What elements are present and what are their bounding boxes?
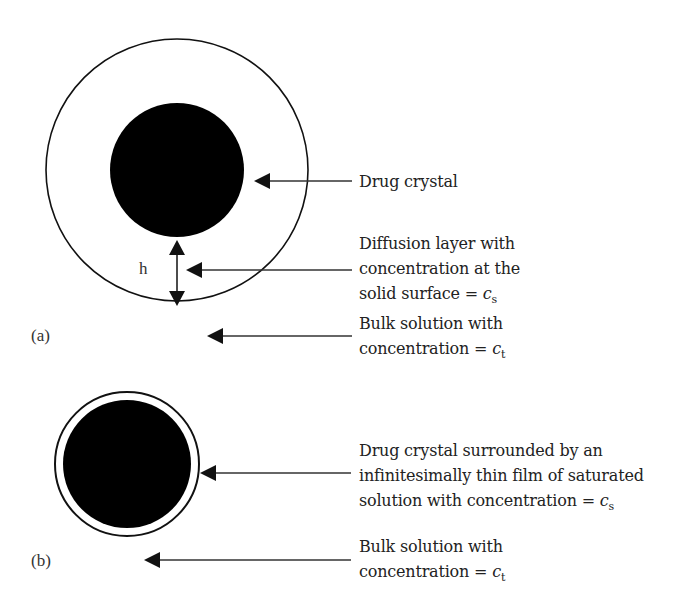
concentration-subscript: s bbox=[609, 500, 614, 513]
drug-crystal-circle-b bbox=[63, 400, 191, 528]
bulk-a-line2: concentration = ct bbox=[359, 336, 505, 367]
concentration-subscript: t bbox=[501, 348, 505, 361]
concentration-subscript: s bbox=[492, 293, 497, 306]
bulk-b-line2-text: concentration = bbox=[359, 562, 492, 581]
bulk-solution-label-a: Bulk solution with concentration = ct bbox=[359, 311, 505, 367]
bulk-a-line1: Bulk solution with bbox=[359, 311, 505, 336]
crystal-film-line1: Drug crystal surrounded by an bbox=[359, 438, 644, 463]
panel-a-diagram bbox=[46, 39, 352, 344]
bulk-solution-label-b: Bulk solution with concentration = ct bbox=[359, 534, 505, 590]
drug-crystal-label: Drug crystal bbox=[359, 169, 458, 194]
arrow-bulk-solution-a bbox=[207, 328, 352, 344]
diffusion-layer-line3: solid surface = cs bbox=[359, 281, 520, 312]
diffusion-layer-line3-text: solid surface = bbox=[359, 284, 483, 303]
arrow-crystal-film bbox=[200, 465, 351, 481]
arrow-bulk-solution-b bbox=[144, 552, 351, 568]
crystal-film-label: Drug crystal surrounded by an infinitesi… bbox=[359, 438, 644, 519]
drug-crystal-circle bbox=[110, 103, 244, 237]
panel-b-diagram bbox=[55, 392, 351, 568]
panel-b-label: (b) bbox=[31, 551, 51, 571]
diffusion-layer-label: Diffusion layer with concentration at th… bbox=[359, 231, 520, 312]
crystal-film-line2: infinitesimally thin film of saturated bbox=[359, 463, 644, 488]
concentration-subscript: t bbox=[501, 571, 505, 584]
drug-crystal-text: Drug crystal bbox=[359, 169, 458, 194]
concentration-symbol: c bbox=[492, 339, 501, 358]
thickness-h-double-arrow bbox=[169, 240, 185, 306]
thickness-h-label: h bbox=[139, 259, 148, 279]
arrow-diffusion-layer bbox=[186, 262, 352, 278]
diffusion-layer-line1: Diffusion layer with bbox=[359, 231, 520, 256]
crystal-film-line3-text: solution with concentration = bbox=[359, 491, 600, 510]
concentration-symbol: c bbox=[492, 562, 501, 581]
crystal-film-line3: solution with concentration = cs bbox=[359, 488, 644, 519]
bulk-b-line1: Bulk solution with bbox=[359, 534, 505, 559]
arrow-drug-crystal bbox=[254, 173, 352, 189]
diffusion-layer-line2: concentration at the bbox=[359, 256, 520, 281]
concentration-symbol: c bbox=[600, 491, 609, 510]
bulk-a-line2-text: concentration = bbox=[359, 339, 492, 358]
bulk-b-line2: concentration = ct bbox=[359, 559, 505, 590]
panel-a-label: (a) bbox=[31, 326, 50, 346]
concentration-symbol: c bbox=[483, 284, 492, 303]
